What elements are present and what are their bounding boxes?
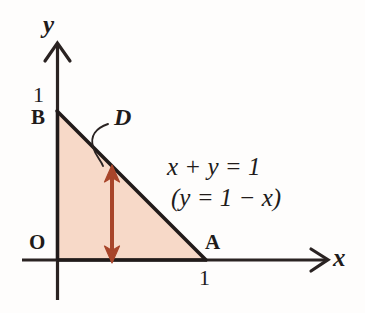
- point-label-b: B: [31, 107, 45, 128]
- line-equation-block: x + y = 1 (y = 1 − x): [167, 152, 281, 213]
- region-label-d: D: [114, 105, 131, 129]
- origin-label: O: [29, 232, 45, 253]
- y-tick-label-1: 1: [33, 84, 44, 106]
- point-label-a: A: [205, 232, 220, 253]
- y-axis-label: y: [43, 12, 54, 37]
- x-axis-label: x: [333, 245, 346, 270]
- x-tick-label-1: 1: [199, 267, 210, 289]
- math-diagram-figure: y x 1 B O A 1 D x + y = 1 (y = 1 − x): [0, 0, 365, 313]
- line-equation-secondary: (y = 1 − x): [167, 183, 281, 214]
- line-equation-primary: x + y = 1: [167, 152, 281, 183]
